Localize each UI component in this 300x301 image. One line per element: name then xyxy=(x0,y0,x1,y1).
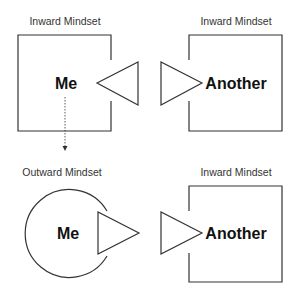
bottom-left-title: Outward Mindset xyxy=(22,166,101,178)
top-left-triangle-inward xyxy=(97,62,138,105)
top-left-title: Inward Mindset xyxy=(29,15,100,27)
bottom-left-label: Me xyxy=(57,225,79,242)
bottom-right-label: Another xyxy=(205,225,266,242)
bottom-right-inward-another: Inward Mindset Another xyxy=(161,166,282,282)
bottom-left-outward-me: Outward Mindset Me xyxy=(22,166,139,278)
top-right-triangle-inward xyxy=(161,62,202,105)
top-left-inward-me: Inward Mindset Me xyxy=(18,15,138,131)
transition-arrow xyxy=(63,97,68,151)
arrowhead-icon xyxy=(63,146,68,151)
mindset-diagram: Inward Mindset Me Inward Mindset Another… xyxy=(0,0,300,301)
bottom-right-title: Inward Mindset xyxy=(200,166,271,178)
top-right-inward-another: Inward Mindset Another xyxy=(161,15,282,131)
bottom-left-triangle-outward xyxy=(98,212,139,254)
top-right-title: Inward Mindset xyxy=(200,15,271,27)
top-right-label: Another xyxy=(205,75,266,92)
bottom-right-triangle-inward xyxy=(161,212,202,254)
top-left-label: Me xyxy=(55,75,77,92)
